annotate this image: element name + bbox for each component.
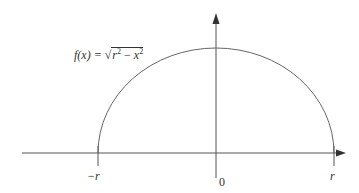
- semicircle-diagram: [0, 0, 359, 193]
- x-axis-arrow-icon: [336, 150, 346, 157]
- y-axis-arrow-icon: [213, 13, 220, 24]
- label-pos-r: r: [330, 170, 335, 182]
- label-neg-r: −r: [87, 170, 100, 182]
- function-lhs: f(x) =: [74, 48, 105, 62]
- function-label: f(x) = √r2 − x2: [74, 48, 143, 61]
- minus-sign: −: [121, 48, 134, 62]
- exponent-2: 2: [139, 47, 143, 56]
- label-origin: 0: [219, 176, 225, 188]
